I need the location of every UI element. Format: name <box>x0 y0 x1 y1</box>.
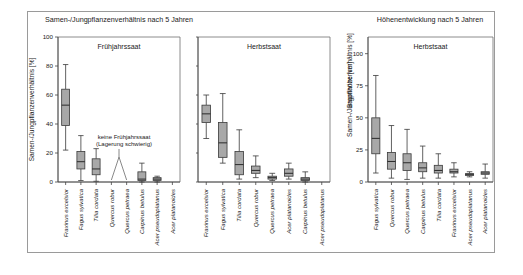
x-tick-label-2-4: Quercus petraea <box>269 188 275 233</box>
box-1-0 <box>62 89 70 125</box>
x-tick-label-1-0: Fraxinus excelsior <box>63 188 69 237</box>
box-2-1 <box>218 123 227 158</box>
chart-title-left: Samen-/Jungpflanzenverhältnis nach 5 Jah… <box>45 15 193 24</box>
y-tick-label-1: 40 <box>46 120 53 127</box>
panel-frame-3 <box>368 37 493 182</box>
box-3-3 <box>419 163 427 172</box>
box-3-1 <box>387 152 395 169</box>
panel-header-3: Herbstsaat <box>414 43 448 50</box>
y-tick-label-3: 100 <box>353 50 364 57</box>
x-tick-label-1-4: Quercus petraea <box>124 188 130 233</box>
boxplot-figure: Samen-/Jungpflanzenverhältnis nach 5 Jah… <box>0 0 523 275</box>
x-tick-label-1-5: Carpinus betulus <box>139 189 145 234</box>
x-tick-label-2-5: Acer platanoides <box>286 189 292 235</box>
panel-header-1: Frühjahrssaat <box>98 43 141 51</box>
y-tick-label-1: 60 <box>46 91 53 98</box>
x-tick-label-3-1: Quercus robur <box>389 188 395 227</box>
annotation-line-2: (Lagerung schwierig) <box>96 141 152 147</box>
y-tick-label-1: 0 <box>50 178 54 185</box>
annotation-line-1: keine Frühjahrssaat <box>98 134 151 140</box>
x-tick-label-1-6: Acer pseudoplatanus <box>154 189 160 246</box>
x-tick-label-2-6: Carpinus betulus <box>302 189 308 234</box>
panel-header-2: Herbstsaat <box>247 43 281 50</box>
y-tick-label-1: 20 <box>46 149 53 156</box>
x-tick-label-3-0: Fagus sylvatica <box>373 188 379 230</box>
x-tick-label-3-5: Fraxinus excelsior <box>451 188 457 237</box>
x-tick-label-1-2: Tilia cordata <box>93 188 99 221</box>
box-3-5 <box>450 169 458 173</box>
y-tick-label-1: 100 <box>43 33 54 40</box>
y-axis-label-1: Samen-/Jungpflanzenverhältnis [%] <box>28 57 36 161</box>
box-2-5 <box>284 169 293 176</box>
x-tick-label-2-1: Fagus sylvatica <box>220 188 226 230</box>
x-tick-label-3-6: Acer pseudoplatanus <box>467 189 473 246</box>
box-2-2 <box>235 152 244 175</box>
box-3-0 <box>372 118 380 154</box>
box-2-3 <box>251 166 260 173</box>
x-tick-label-1-3: Quercus robur <box>109 188 115 227</box>
y-axis-label-3: Baumhöhe [cm] <box>346 62 354 108</box>
x-tick-label-2-0: Fraxinus excelsior <box>203 188 209 237</box>
x-tick-label-1-7: Acer platanoides <box>170 189 176 235</box>
annotation-pointer <box>111 149 126 180</box>
y-tick-label-1: 80 <box>46 62 53 69</box>
y-tick-label-3: 50 <box>356 114 363 121</box>
x-tick-label-2-7: Acer pseudoplatanus <box>319 189 325 246</box>
box-1-2 <box>92 159 100 175</box>
figure-canvas: Samen-/Jungpflanzenverhältnis nach 5 Jah… <box>0 0 523 275</box>
x-tick-label-3-4: Tilia cordata <box>436 188 442 221</box>
x-tick-label-2-2: Tilia cordata <box>236 188 242 221</box>
panel-frame-2 <box>198 37 330 182</box>
x-tick-label-3-7: Acer platanoides <box>482 189 488 235</box>
box-3-4 <box>434 165 442 173</box>
x-tick-label-1-1: Fagus sylvatica <box>78 188 84 230</box>
x-tick-label-3-2: Quercus petraea <box>404 188 410 233</box>
y-tick-label-3: 25 <box>356 146 363 153</box>
y-tick-label-3: 75 <box>356 82 363 89</box>
box-1-1 <box>77 152 85 169</box>
y-tick-label-3: 0 <box>360 178 364 185</box>
x-tick-label-2-3: Quercus robur <box>253 188 259 227</box>
box-3-2 <box>403 154 411 171</box>
chart-title-right: Höhenentwicklung nach 5 Jahren <box>377 15 483 24</box>
x-tick-label-3-3: Carpinus betulus <box>420 189 426 234</box>
panel-frame-1 <box>58 37 180 182</box>
